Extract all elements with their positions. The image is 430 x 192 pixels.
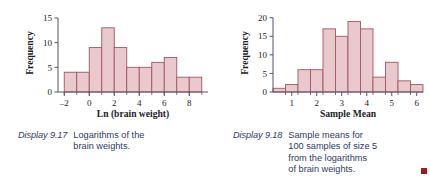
figure-pair: 051015–202468Ln (brain weight)Frequency … (0, 0, 430, 192)
histogram-bar (164, 57, 177, 92)
caption-text-9-18: Sample means for 100 samples of size 5 f… (288, 130, 429, 176)
histogram-sample-mean: 05101520123456Sample MeanFrequency (215, 0, 430, 126)
x-axis-tick-label: 2 (315, 98, 320, 108)
histogram-bar (139, 67, 152, 92)
y-axis-tick-label: 0 (263, 87, 268, 97)
caption-label-9-18: Display 9.18 (233, 130, 288, 141)
histogram-bar (361, 29, 374, 92)
y-axis-tick-label: 15 (43, 13, 53, 23)
histogram-bar (398, 81, 411, 92)
y-axis-tick-label: 10 (258, 50, 268, 60)
histogram-bar (114, 48, 127, 92)
y-axis-tick-label: 5 (263, 69, 268, 79)
y-axis-tick-label: 20 (258, 13, 268, 23)
y-axis-tick-label: 5 (48, 63, 53, 73)
histogram-bar (323, 29, 336, 92)
histogram-bar (336, 36, 349, 92)
caption-line: from the logarithms (288, 153, 429, 164)
caption-line: Logarithms of the (73, 130, 214, 141)
bars (64, 28, 202, 92)
histogram-bar (64, 72, 77, 92)
histogram-bar (152, 62, 165, 92)
x-axis-tick-label: 6 (162, 98, 167, 108)
y-axis-tick-label: 15 (258, 31, 268, 41)
histogram-svg-9-18: 05101520123456Sample MeanFrequency (215, 0, 430, 126)
x-axis-tick-label: 0 (87, 98, 92, 108)
histogram-bar (89, 48, 102, 92)
x-axis-tick-label: 2 (112, 98, 117, 108)
histogram-bar (273, 88, 286, 92)
y-axis-title: Frequency (239, 31, 250, 75)
caption-line: 100 samples of size 5 (288, 141, 429, 152)
histogram-bar (127, 67, 140, 92)
y-axis-tick-label: 10 (43, 38, 53, 48)
histogram-bar (189, 77, 202, 92)
x-axis-title: Ln (brain weight) (97, 108, 170, 120)
histogram-bar (411, 85, 424, 92)
x-axis-tick-label: 6 (415, 98, 420, 108)
histogram-bar (386, 62, 399, 92)
x-axis-title: Sample Mean (320, 108, 377, 119)
y-axis-title: Frequency (24, 31, 35, 75)
histogram-bar (102, 28, 115, 92)
histogram-bar (373, 77, 386, 92)
x-axis-tick-label: 8 (187, 98, 192, 108)
histogram-bar (298, 70, 311, 92)
caption-text-9-17: Logarithms of the brain weights. (73, 130, 214, 153)
x-axis-tick-label: 1 (290, 98, 295, 108)
histogram-bar (348, 21, 361, 92)
figure-display-9-17: 051015–202468Ln (brain weight)Frequency … (0, 0, 215, 192)
x-axis-tick-label: 4 (365, 98, 370, 108)
bars (273, 21, 423, 92)
histogram-bar (286, 85, 299, 92)
histogram-bar (77, 72, 90, 92)
caption-label-9-17: Display 9.17 (18, 130, 73, 141)
histogram-ln-brain-weight: 051015–202468Ln (brain weight)Frequency (0, 0, 215, 126)
histogram-svg-9-17: 051015–202468Ln (brain weight)Frequency (0, 0, 215, 126)
caption-line: of brain weights. (288, 164, 429, 175)
end-of-section-marker (421, 168, 427, 174)
x-axis-tick-label: 4 (137, 98, 142, 108)
x-axis-tick-label: 3 (340, 98, 345, 108)
caption-display-9-18: Display 9.18 Sample means for 100 sample… (233, 130, 429, 176)
histogram-bar (177, 77, 190, 92)
caption-line: Sample means for (288, 130, 429, 141)
caption-line: brain weights. (73, 141, 214, 152)
figure-display-9-18: 05101520123456Sample MeanFrequency Displ… (215, 0, 430, 192)
y-axis-tick-label: 0 (48, 87, 53, 97)
x-axis-tick-label: 5 (390, 98, 395, 108)
x-axis-tick-label: –2 (59, 98, 69, 108)
histogram-bar (311, 70, 324, 92)
caption-display-9-17: Display 9.17 Logarithms of the brain wei… (18, 130, 214, 153)
